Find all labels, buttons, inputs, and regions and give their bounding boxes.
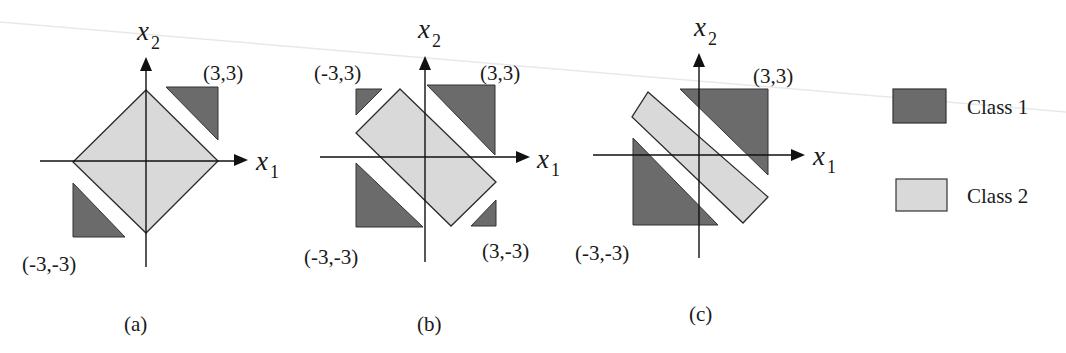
corner-label-3-neg3: (3,-3) [482,239,529,263]
x2-axis-label: x [136,16,149,46]
figure-stage: x 1 x 2 (3,3) (-3,-3) (a) x 1 x 2 (-3,3)… [0,0,1066,353]
x2-axis-subscript: 2 [708,29,717,49]
x2-axis-subscript: 2 [151,33,160,53]
x2-arrow-icon [693,53,705,67]
x1-axis-label: x [255,146,268,176]
x1-axis-subscript: 1 [270,162,279,182]
corner-label-neg3-neg3: (-3,-3) [22,252,76,276]
x1-axis-subscript: 1 [551,160,560,180]
corner-label-neg3-neg3: (-3,-3) [575,241,629,265]
x1-arrow-icon [234,154,248,166]
corner-label-3-3: (3,3) [753,64,793,88]
x2-axis-subscript: 2 [432,31,441,51]
legend-swatch-class1 [893,89,946,123]
panel-c: x 1 x 2 (3,3) (-3,-3) (c) [575,12,836,326]
x2-arrow-icon [140,57,152,71]
corner-label-neg3-3: (-3,3) [314,61,361,85]
legend-label-class1: Class 1 [967,95,1028,119]
x1-arrow-icon [516,151,530,163]
panel-caption-c: (c) [689,302,712,326]
panel-b: x 1 x 2 (-3,3) (3,3) (-3,-3) (3,-3) (b) [304,14,560,336]
panel-a: x 1 x 2 (3,3) (-3,-3) (a) [22,16,279,336]
class1-bottom-right-region [471,200,496,226]
corner-label-3-3: (3,3) [203,61,243,85]
x1-arrow-icon [791,149,805,161]
x1-axis-label: x [812,141,825,171]
legend: Class 1 Class 2 [893,89,1028,211]
x1-axis-subscript: 1 [827,157,836,177]
legend-swatch-class2 [896,179,947,211]
panel-caption-b: (b) [417,312,442,336]
decision-region-figure: x 1 x 2 (3,3) (-3,-3) (a) x 1 x 2 (-3,3)… [0,0,1066,353]
legend-label-class2: Class 2 [967,184,1028,208]
corner-label-neg3-neg3: (-3,-3) [304,245,358,269]
x1-axis-label: x [536,144,549,174]
x2-axis-label: x [417,14,430,44]
corner-label-3-3: (3,3) [480,61,520,85]
x2-axis-label: x [693,12,706,42]
panel-caption-a: (a) [124,312,147,336]
